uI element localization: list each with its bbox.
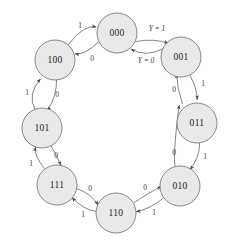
- edge-label-101-100: 1: [25, 88, 29, 97]
- state-node-111[interactable]: 111: [37, 165, 77, 205]
- states-layer: 000 001 011 010 110 111: [22, 13, 217, 233]
- edge-label-001-000: Y = 0: [138, 56, 155, 65]
- edge-label-011-001: 0: [172, 85, 176, 94]
- edge-label-100-000: 1: [78, 21, 82, 30]
- edge-011-to-010: [190, 143, 200, 170]
- edge-111-to-101: [35, 147, 44, 169]
- state-diagram-canvas: Y = 1 Y = 0 1 0 1 0 1 0 1 0 1 0 1 0 1 0 …: [0, 0, 234, 242]
- edge-label-001-011: 1: [201, 79, 205, 88]
- state-label-000: 000: [109, 28, 124, 38]
- edge-label-010-011: 0: [172, 148, 176, 157]
- state-node-100[interactable]: 100: [35, 40, 75, 80]
- edge-010-to-011: [175, 105, 180, 167]
- edge-011-to-001: [177, 74, 183, 104]
- state-node-000[interactable]: 000: [97, 13, 137, 53]
- state-node-001[interactable]: 001: [161, 37, 201, 77]
- state-node-101[interactable]: 101: [22, 108, 62, 148]
- edge-label-000-100: 0: [90, 54, 94, 63]
- state-label-011: 011: [190, 118, 205, 128]
- edge-label-110-010: 0: [143, 183, 147, 192]
- edge-000-to-100: [75, 42, 99, 54]
- edge-label-101-111: 0: [54, 151, 58, 160]
- state-label-111: 111: [50, 180, 64, 190]
- edge-label-010-110: 1: [152, 208, 156, 217]
- edge-label-110-111: 1: [81, 210, 85, 219]
- edge-001-to-000: [131, 48, 164, 53]
- edge-110-to-010: [134, 186, 162, 203]
- state-label-001: 001: [173, 52, 188, 62]
- state-node-110[interactable]: 110: [96, 193, 136, 233]
- state-label-101: 101: [34, 123, 49, 133]
- state-node-010[interactable]: 010: [160, 166, 200, 206]
- edge-010-to-110: [136, 198, 163, 212]
- state-label-100: 100: [47, 55, 62, 65]
- edge-label-100-101: 0: [55, 90, 59, 99]
- edge-101-to-100: [32, 79, 40, 110]
- state-label-010: 010: [172, 181, 187, 191]
- state-label-110: 110: [109, 208, 124, 218]
- edge-100-to-000: [68, 27, 96, 45]
- edge-000-to-001: [135, 40, 168, 43]
- edge-label-111-101: 1: [29, 159, 33, 168]
- state-node-011[interactable]: 011: [177, 103, 217, 143]
- edge-label-011-010: 1: [203, 152, 207, 161]
- edge-label-000-001: Y = 1: [149, 24, 166, 33]
- edge-label-111-110: 0: [88, 184, 92, 193]
- edge-001-to-011: [190, 76, 197, 100]
- state-transition-diagram: Y = 1 Y = 0 1 0 1 0 1 0 1 0 1 0 1 0 1 0 …: [0, 0, 234, 242]
